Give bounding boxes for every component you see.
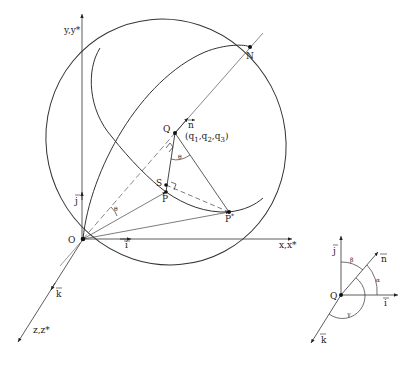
point-s xyxy=(164,183,168,187)
line-op-star xyxy=(83,212,229,239)
inset-label-j: j xyxy=(332,246,336,256)
label-n: N xyxy=(246,51,254,61)
label-k: k xyxy=(56,289,62,299)
z-aux-line xyxy=(60,243,80,266)
label-s: S xyxy=(156,178,162,188)
gamma-label: γ xyxy=(347,310,351,318)
sphere-outline xyxy=(3,0,330,307)
y-axis-label: y,y* xyxy=(63,25,81,35)
direction-cosine-inset: Q j n i k α β γ xyxy=(311,236,398,345)
alpha-label: α xyxy=(376,276,380,283)
inset-label-q: Q xyxy=(330,291,337,301)
label-j: j xyxy=(74,196,78,206)
beta-arc xyxy=(341,262,363,270)
label-i: i xyxy=(125,240,128,250)
inset-label-n: n xyxy=(381,254,387,264)
label-n-vector: n xyxy=(188,120,194,130)
point-q xyxy=(173,131,177,135)
inset-n-axis xyxy=(341,252,378,295)
theta-label-o: θ xyxy=(114,205,118,212)
label-p: P xyxy=(162,194,168,204)
line-qp-star xyxy=(175,133,229,212)
line-op xyxy=(83,192,166,239)
label-o: O xyxy=(68,235,75,245)
inset-label-k: k xyxy=(321,335,327,345)
z-axis-label: z,z* xyxy=(33,325,50,335)
label-q: Q xyxy=(163,124,170,134)
label-p-star: P* xyxy=(225,212,234,224)
inset-label-i: i xyxy=(384,298,387,308)
z-axis xyxy=(18,239,83,342)
inset-point-q xyxy=(339,293,343,297)
k-vector xyxy=(51,283,55,290)
sphere-rotation-diagram: y,y* x,x* z,z* O N Q S P P* n (q1,q2,q3)… xyxy=(0,0,415,365)
q-coordinates: (q1,q2,q3) xyxy=(185,131,228,144)
point-n xyxy=(248,45,252,49)
point-o xyxy=(81,237,86,242)
theta-label-q: θ xyxy=(178,153,182,160)
x-axis-label: x,x* xyxy=(279,240,297,250)
beta-label: β xyxy=(350,256,354,264)
